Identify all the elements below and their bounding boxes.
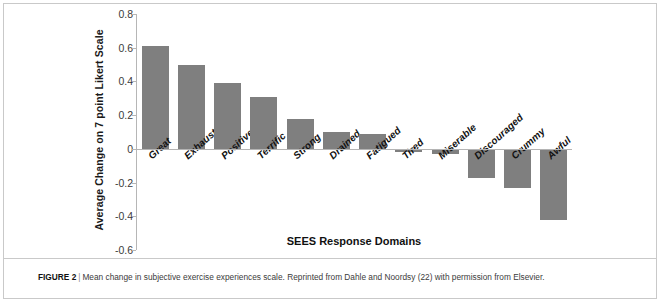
y-tick-mark-6 bbox=[132, 216, 136, 217]
y-tick-mark-2 bbox=[132, 81, 136, 82]
y-tick-mark-5 bbox=[132, 183, 136, 184]
figure-caption: FIGURE 2|Mean change in subjective exerc… bbox=[38, 272, 638, 283]
y-axis-title: Average Change on 7 point Likert Scale bbox=[88, 10, 110, 250]
y-axis-title-text: Average Change on 7 point Likert Scale bbox=[93, 29, 105, 230]
y-axis-tick-6: -0.4 bbox=[115, 210, 133, 222]
y-axis-tick-5: -0.2 bbox=[115, 177, 133, 189]
y-tick-mark-7 bbox=[132, 250, 136, 251]
y-axis-tick-2: 0.4 bbox=[118, 75, 133, 87]
caption-text: Mean change in subjective exercise exper… bbox=[82, 272, 544, 282]
zero-baseline bbox=[136, 149, 572, 150]
x-axis-title: SEES Response Domains bbox=[136, 235, 572, 247]
bar-series: GreatExhaustedPositiveTerrificStrongDrai… bbox=[137, 14, 572, 250]
y-axis-tick-0: 0.8 bbox=[118, 8, 133, 20]
figure-label: FIGURE 2 bbox=[38, 272, 76, 282]
y-axis-tick-labels: 0.80.60.40.20-0.2-0.4-0.6 bbox=[108, 4, 136, 256]
plot-area: GreatExhaustedPositiveTerrificStrongDrai… bbox=[136, 14, 572, 250]
y-axis-tick-1: 0.6 bbox=[118, 42, 133, 54]
caption-divider bbox=[4, 258, 656, 259]
chart-panel: Average Change on 7 point Likert Scale 0… bbox=[4, 4, 656, 256]
bar bbox=[142, 46, 169, 149]
y-axis-tick-3: 0.2 bbox=[118, 109, 133, 121]
y-tick-mark-0 bbox=[132, 14, 136, 15]
y-tick-mark-1 bbox=[132, 48, 136, 49]
y-tick-mark-3 bbox=[132, 115, 136, 116]
y-axis-tick-7: -0.6 bbox=[115, 244, 133, 256]
figure-container: Average Change on 7 point Likert Scale 0… bbox=[0, 0, 660, 302]
